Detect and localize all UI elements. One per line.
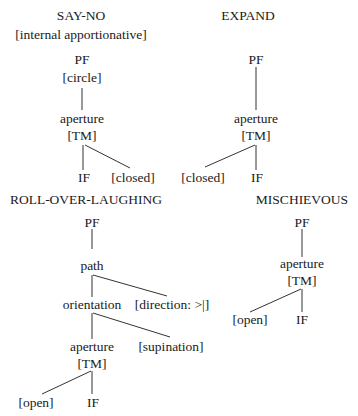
leaf-left: [open] [18,395,53,411]
leaf-right: IF [296,312,308,328]
aperture-feature: [TM] [287,273,316,289]
aperture-feature: [TM] [241,128,270,144]
root-node: PF [84,215,99,231]
aperture-node: aperture [60,111,104,127]
aperture-node: aperture [234,111,278,127]
aperture-feature: [TM] [77,356,106,372]
orientation-node: orientation [63,297,121,313]
tree-title: SAY-NO [57,8,105,24]
leaf-left: [open] [232,312,267,328]
leaf-left: IF [78,170,90,186]
root-node: PF [74,52,89,68]
direction-feature: [direction: >|] [135,297,209,313]
root-node: PF [294,215,309,231]
leaf-right: IF [251,170,263,186]
path-node: path [80,258,103,274]
leaf-right: [closed] [111,170,154,186]
leaf-left: [closed] [181,170,224,186]
root-node: PF [248,52,263,68]
tree-subtitle: [internal apportionative] [15,27,147,43]
tree-title: EXPAND [221,8,275,24]
aperture-feature: [TM] [67,128,96,144]
aperture-node: aperture [70,339,114,355]
tree-title: ROLL-OVER-LAUGHING [10,192,162,208]
root-feature: [circle] [63,70,102,86]
leaf-right: IF [87,395,99,411]
tree-title: MISCHIEVOUS [256,192,348,208]
aperture-node: aperture [280,256,324,272]
supination-feature: [supination] [138,339,203,355]
